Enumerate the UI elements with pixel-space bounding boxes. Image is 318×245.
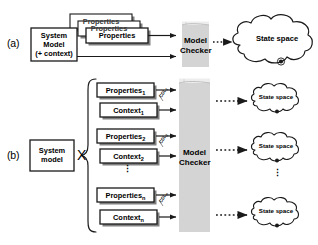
product-operator: X (77, 147, 86, 163)
model-checker-label-a-line1: Model (180, 36, 211, 46)
figure-diagram: (a) System Model (+ context) Properties … (0, 0, 318, 245)
model-checker-label-b-line1: Model (179, 148, 210, 158)
system-model-label-b-line1: System (30, 147, 74, 155)
model-checker-label-b-line2: Checker (179, 158, 210, 168)
panel-letter-a: (a) (7, 38, 19, 49)
system-model-label-b-line2: model (30, 156, 74, 164)
context-label-n: Contextn (100, 214, 157, 222)
state-space-label-b1: State space (252, 94, 300, 101)
context-label-2: Context2 (100, 153, 157, 161)
pairs-ellipsis: ⋮ (110, 168, 144, 171)
model-checker-label-a-line2: Checker (180, 46, 211, 56)
properties-stack-label-1: Properties (86, 32, 148, 40)
properties-label-2: Properties2 (97, 133, 154, 141)
system-model-label-a-line3: (+ context) (31, 50, 77, 58)
state-space-label-a: State space (243, 35, 311, 43)
context-label-1: Context1 (100, 107, 157, 115)
state-space-ellipsis: ⋮ (260, 172, 294, 175)
system-model-label-a-line2: Model (31, 41, 77, 49)
panel-letter-b: (b) (7, 150, 19, 161)
properties-label-n: Propertiesn (97, 192, 154, 200)
state-space-label-bn: State space (252, 208, 300, 215)
properties-label-1: Properties1 (97, 87, 154, 95)
state-space-label-b2: State space (252, 143, 300, 150)
system-model-label-a-line1: System (31, 32, 77, 40)
